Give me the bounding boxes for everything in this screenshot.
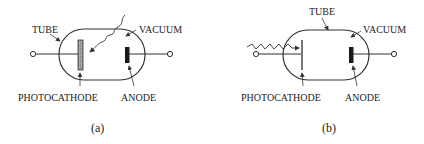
- photocathode-label: PHOTOCATHODE: [18, 92, 98, 103]
- anode-label: ANODE: [345, 92, 380, 103]
- cathode-terminal-icon: [253, 51, 258, 56]
- vacuum-label: VACUUM: [139, 24, 182, 35]
- tube-envelope: [283, 30, 369, 80]
- tube-pointer-arrow: [50, 34, 60, 41]
- anode-label: ANODE: [121, 92, 156, 103]
- vacuum-label: VACUUM: [363, 24, 406, 35]
- phototube-diagram: TUBE VACUUM PHOTOCATHODE ANODE (a) TUBE …: [0, 0, 424, 144]
- panel-b: TUBE VACUUM PHOTOCATHODE ANODE (b): [241, 6, 406, 135]
- tube-pointer-arrow: [322, 18, 328, 30]
- panel-b-caption: (b): [322, 121, 336, 135]
- photocathode-plate: [301, 40, 303, 70]
- anode-terminal-icon: [391, 51, 396, 56]
- photocathode-plate: [78, 40, 83, 70]
- anode-plate: [349, 47, 354, 63]
- panel-a: TUBE VACUUM PHOTOCATHODE ANODE (a): [18, 15, 182, 135]
- tube-label: TUBE: [309, 6, 335, 17]
- panel-a-caption: (a): [91, 121, 104, 135]
- anode-pointer-arrow: [353, 66, 357, 86]
- photocathode-pointer-arrow: [302, 73, 303, 86]
- light-wave-arrow-icon: [247, 44, 299, 49]
- anode-terminal-icon: [167, 51, 172, 56]
- anode-plate: [125, 47, 130, 63]
- photocathode-label: PHOTOCATHODE: [241, 92, 321, 103]
- light-wave-arrow-icon: [90, 15, 125, 52]
- cathode-terminal-icon: [30, 51, 35, 56]
- tube-label: TUBE: [32, 24, 58, 35]
